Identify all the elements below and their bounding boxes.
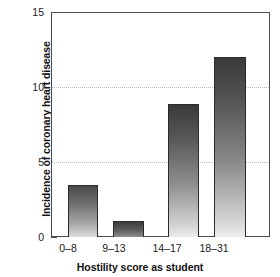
x-axis-title: Hostility score as student — [0, 261, 280, 273]
bar-14-17[interactable] — [168, 104, 199, 238]
y-tick-label-10: 10 — [8, 82, 44, 93]
x-tick-label-0-8: 0–8 — [48, 243, 88, 254]
x-tick-label-14-17: 14–17 — [145, 243, 189, 254]
y-tick-label-5: 5 — [8, 157, 44, 168]
x-tick-label-9-13: 9–13 — [93, 243, 135, 254]
bar-0-8[interactable] — [68, 185, 98, 238]
y-tick-label-15: 15 — [8, 7, 44, 18]
x-tick-label-18-31: 18–31 — [192, 243, 236, 254]
bar-9-13[interactable] — [113, 221, 144, 238]
y-tick-label-0: 0 — [8, 232, 44, 243]
bar-18-31[interactable] — [214, 57, 246, 237]
y-tick-mark-0 — [51, 237, 57, 238]
bars-layer — [51, 12, 270, 237]
chart-figure: Incidence of coronary heart disease 25 y… — [0, 0, 280, 277]
